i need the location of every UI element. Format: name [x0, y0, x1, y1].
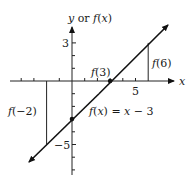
label-f6: f(6): [151, 57, 172, 70]
y-tick-3: 3: [62, 37, 69, 50]
label-f3: f(3): [90, 66, 111, 79]
point-y-intercept: [70, 117, 75, 122]
x-axis-label: x: [179, 75, 186, 88]
function-label: f(x) = x − 3: [88, 105, 154, 118]
x-tick-5: 5: [132, 85, 139, 98]
y-tick-neg5: −5: [54, 139, 70, 152]
y-axis-label: y or f(x): [67, 12, 112, 25]
function-graph: y or f(x) x 3 −5 5 f(3) f(6) f(−2) f(x) …: [0, 0, 192, 179]
point-x-intercept: [108, 79, 113, 84]
label-f-neg2: f(−2): [7, 105, 37, 118]
y-ticks: [72, 43, 76, 170]
